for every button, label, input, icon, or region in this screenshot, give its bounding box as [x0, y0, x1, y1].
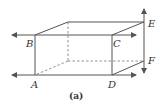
label-b: B	[25, 38, 33, 49]
cuboid-diagram: B C A D E F (a)	[0, 0, 162, 106]
visible-edges	[35, 22, 144, 75]
hidden-edges	[35, 22, 144, 75]
label-f: F	[147, 55, 156, 66]
label-c: C	[113, 38, 121, 49]
label-e: E	[147, 18, 156, 29]
label-a: A	[30, 79, 38, 90]
label-d: D	[107, 79, 116, 90]
figure-caption: (a)	[69, 91, 83, 101]
